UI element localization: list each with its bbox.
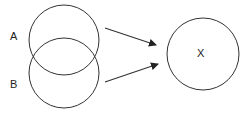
label-x: X — [197, 47, 205, 59]
venn-to-circle-diagram: A B X — [0, 0, 243, 113]
arrow-b-to-x — [105, 64, 158, 82]
label-a: A — [10, 30, 18, 42]
circle-b — [29, 38, 99, 108]
arrow-a-to-x — [105, 28, 156, 45]
circle-a — [29, 5, 99, 75]
label-b: B — [10, 78, 17, 90]
